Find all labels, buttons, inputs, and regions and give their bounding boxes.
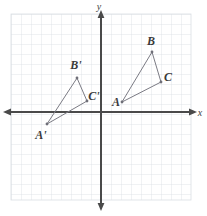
vertex-point-a — [121, 101, 124, 104]
vertex-label-c-prime: C' — [88, 89, 100, 103]
x-axis-label: x — [197, 107, 203, 118]
vertex-point-a-prime — [46, 123, 49, 126]
vertex-label-c: C — [164, 70, 173, 84]
geometry-diagram-svg: x y A B C A' B' C' — [0, 0, 207, 216]
y-axis-label: y — [96, 1, 102, 12]
vertex-label-a: A — [111, 95, 120, 109]
coordinate-plane-figure: x y A B C A' B' C' — [0, 0, 207, 216]
vertex-point-c — [160, 81, 163, 84]
vertex-label-b: B — [146, 34, 155, 48]
vertex-label-a-prime: A' — [34, 128, 47, 142]
vertex-label-b-prime: B' — [69, 58, 82, 72]
vertex-point-b-prime — [76, 77, 79, 80]
vertex-point-b — [151, 51, 154, 54]
